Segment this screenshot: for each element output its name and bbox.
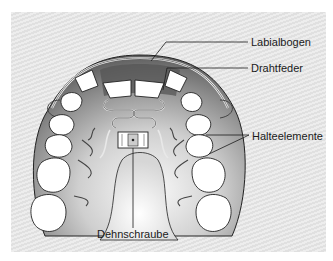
label-labialbogen: Labialbogen (251, 36, 311, 48)
expansion-screw (118, 132, 148, 148)
label-dehnschraube: Dehnschraube (97, 228, 169, 240)
label-halteelemente: Halteelemente (252, 130, 323, 142)
label-drahtfeder: Drahtfeder (251, 62, 303, 74)
